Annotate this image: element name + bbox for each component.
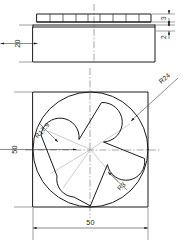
radius-label-r3: R3 bbox=[116, 181, 127, 192]
dimension-label-plan-50-horizontal: 50 bbox=[86, 218, 94, 227]
radius-leader-r24: R24 bbox=[131, 71, 178, 121]
dimension-label-20: 20 bbox=[13, 39, 22, 47]
dimension-height-20: 20 bbox=[1, 25, 38, 62]
star-cutout bbox=[41, 102, 145, 205]
dimension-label-3: 3 bbox=[160, 16, 167, 20]
radius-label-r24: R24 bbox=[157, 71, 171, 85]
dimension-label-plan-50-vertical: 50 bbox=[10, 145, 19, 153]
radius-leader-r3: R3 bbox=[108, 172, 127, 192]
dimension-plan-height-50: 50 bbox=[0, 92, 77, 207]
engineering-drawing: 20 3 2 bbox=[0, 0, 188, 250]
front-elevation-view: 20 3 2 bbox=[1, 4, 176, 62]
dimension-flange-2: 2 bbox=[156, 18, 175, 39]
dimension-label-2: 2 bbox=[160, 35, 167, 39]
radius-leader-r17-9: R17.9 bbox=[33, 121, 58, 142]
dimension-rib-3: 3 bbox=[152, 10, 175, 26]
dimension-plan-width-50: 50 bbox=[33, 208, 148, 240]
plan-view: R24 R17.9 R3 50 50 bbox=[0, 68, 178, 240]
